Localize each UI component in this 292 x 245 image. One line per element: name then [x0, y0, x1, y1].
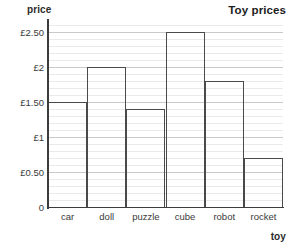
x-axis-line [47, 207, 284, 209]
y-axis-line [47, 19, 49, 209]
y-axis-label: price [27, 4, 51, 15]
gridline-minor [48, 25, 283, 26]
bar-rocket [244, 158, 283, 207]
bar-cube [166, 32, 205, 207]
y-tick-label: £1.50 [20, 96, 44, 107]
bar-car [48, 102, 87, 207]
y-tick-label: £2 [33, 61, 44, 72]
bar-chart: price Toy prices 0£0.50£1£1.50£2£2.50 ca… [0, 0, 292, 245]
y-tick-label: £0.50 [20, 166, 44, 177]
plot-area [48, 21, 283, 207]
bar-doll [87, 67, 126, 207]
x-tick-label-puzzle: puzzle [126, 211, 165, 222]
y-tick-label: £1 [33, 131, 44, 142]
x-tick-label-cube: cube [166, 211, 205, 222]
x-tick-label-rocket: rocket [244, 211, 283, 222]
y-tick-label: 0 [39, 202, 44, 213]
x-tick-label-robot: robot [205, 211, 244, 222]
bar-puzzle [126, 109, 165, 207]
chart-title: Toy prices [228, 4, 286, 16]
x-tick-label-car: car [48, 211, 87, 222]
x-axis-label: toy [271, 231, 286, 242]
y-tick-label: £2.50 [20, 26, 44, 37]
bar-robot [205, 81, 244, 207]
plot-canvas [48, 21, 283, 207]
x-tick-label-doll: doll [87, 211, 126, 222]
